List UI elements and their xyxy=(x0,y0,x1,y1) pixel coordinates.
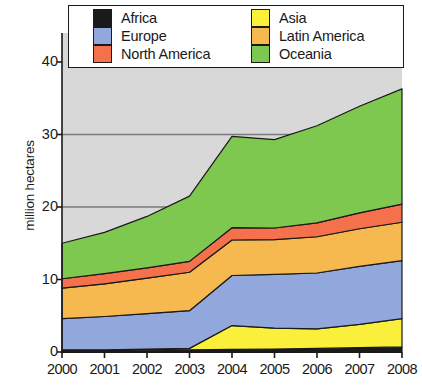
legend-label: Asia xyxy=(279,11,306,26)
legend-label: Europe xyxy=(121,29,167,44)
legend-swatch-icon xyxy=(251,9,270,27)
legend-swatch-icon xyxy=(251,27,270,45)
legend-swatch-icon xyxy=(93,45,112,63)
x-axis-tick-label: 2005 xyxy=(252,362,298,377)
legend-entry[interactable]: Latin America xyxy=(251,27,364,45)
stacked-area-chart: million hectares 010203040 2000200120022… xyxy=(0,0,422,386)
legend-entry[interactable]: North America xyxy=(93,45,210,63)
legend-entry[interactable]: Europe xyxy=(93,27,210,45)
legend-column-left: AfricaEuropeNorth America xyxy=(93,9,210,63)
legend-swatch-icon xyxy=(251,45,270,63)
legend-label: Africa xyxy=(121,11,157,26)
x-axis-tick-label: 2002 xyxy=(124,362,170,377)
legend-entry[interactable]: Oceania xyxy=(251,45,364,63)
x-axis-tick-label: 2000 xyxy=(39,362,85,377)
legend-swatch-icon xyxy=(93,9,112,27)
legend-swatch-icon xyxy=(93,27,112,45)
legend-label: North America xyxy=(121,47,210,62)
x-axis-tick-label: 2003 xyxy=(167,362,213,377)
legend-entry[interactable]: Asia xyxy=(251,9,364,27)
legend: AfricaEuropeNorth America AsiaLatin Amer… xyxy=(68,5,404,68)
x-axis-tick-label: 2008 xyxy=(379,362,422,377)
legend-column-right: AsiaLatin AmericaOceania xyxy=(251,9,364,63)
legend-entry[interactable]: Africa xyxy=(93,9,210,27)
x-axis-tick-labels: 200020012002200320042005200620072008 xyxy=(62,362,402,384)
legend-label: Latin America xyxy=(279,29,364,44)
x-axis-tick-label: 2007 xyxy=(337,362,383,377)
legend-label: Oceania xyxy=(279,47,332,62)
x-axis-tick-label: 2001 xyxy=(82,362,128,377)
x-axis-tick-label: 2004 xyxy=(209,362,255,377)
x-axis-tick-label: 2006 xyxy=(294,362,340,377)
